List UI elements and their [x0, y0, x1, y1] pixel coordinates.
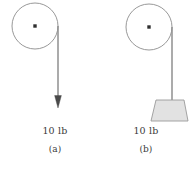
- pulley-axle-dot-b: [147, 25, 150, 28]
- figure-background: [0, 0, 194, 170]
- hanging-block-b: [151, 100, 188, 121]
- figure-drawing-canvas: [0, 0, 194, 170]
- pulley-figure: 10 lb 10 lb (a) (b): [0, 0, 194, 170]
- pulley-axle-dot-a: [33, 24, 36, 27]
